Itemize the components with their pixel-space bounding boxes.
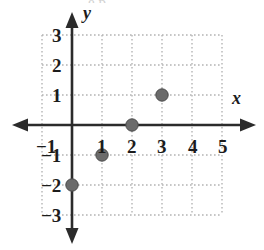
x-tick-label-4: 4: [188, 137, 198, 156]
x-tick-label-3: 3: [157, 137, 167, 156]
y-tick-label-neg3: −3: [41, 206, 61, 225]
y-tick-label-1: 1: [52, 86, 62, 105]
x-axis-arrow-right: [240, 119, 256, 132]
x-tick-label-2: 2: [127, 137, 137, 156]
y-tick-label-2: 2: [52, 56, 62, 75]
y-tick-label-neg1: −1: [41, 146, 61, 165]
y-axis-label: y: [83, 4, 91, 22]
x-tick-label-1: 1: [97, 137, 107, 156]
data-point: [126, 119, 138, 131]
y-tick-label-3: 3: [52, 26, 62, 45]
x-tick-label-5: 5: [218, 137, 228, 156]
y-axis-arrow-up: [66, 12, 79, 28]
data-point: [156, 89, 168, 101]
data-point-series: [66, 89, 168, 191]
x-axis-arrow-left: [12, 119, 28, 132]
coordinate-plane-figure: e p: [0, 0, 264, 250]
y-axis-arrow-down: [66, 228, 79, 244]
y-tick-label-neg2: −2: [41, 176, 61, 195]
data-point: [66, 179, 78, 191]
graph-canvas: [0, 0, 264, 250]
x-axis-label: x: [232, 89, 241, 107]
